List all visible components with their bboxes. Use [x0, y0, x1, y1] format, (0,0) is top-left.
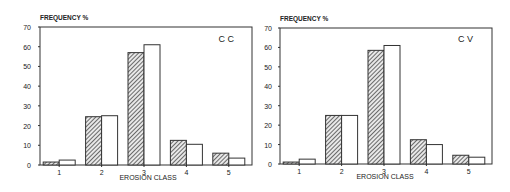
- bar-hatched-class-4: [170, 140, 186, 165]
- x-tick-label: 4: [184, 169, 188, 176]
- x-tick-label: 2: [100, 169, 104, 176]
- chart-title: C C: [219, 34, 235, 44]
- bar-open-class-1: [299, 159, 315, 164]
- chart-cv-svg: 010203040506070FREQUENCY %C V12345EROSIO…: [255, 0, 510, 192]
- y-tick-label: 70: [264, 25, 272, 32]
- y-tick-label: 30: [264, 103, 272, 110]
- bar-open-class-5: [229, 158, 245, 165]
- bar-open-class-2: [102, 116, 118, 165]
- bar-hatched-class-3: [128, 53, 144, 165]
- y-axis-label: FREQUENCY %: [40, 14, 88, 22]
- x-axis-label: EROSION CLASS: [356, 173, 414, 180]
- bar-open-class-4: [186, 144, 202, 165]
- bar-hatched-class-4: [410, 140, 426, 164]
- x-tick-label: 2: [340, 168, 344, 175]
- bar-hatched-class-5: [213, 153, 229, 165]
- bar-open-class-2: [342, 115, 358, 164]
- y-tick-label: 0: [27, 162, 31, 169]
- y-tick-label: 70: [23, 24, 31, 31]
- bar-open-class-3: [384, 45, 400, 164]
- x-tick-label: 5: [467, 168, 471, 175]
- chart-cv: 010203040506070FREQUENCY %C V12345EROSIO…: [255, 0, 510, 192]
- bar-hatched-class-5: [453, 155, 469, 164]
- x-axis-label: EROSION CLASS: [119, 174, 177, 181]
- y-tick-label: 60: [264, 44, 272, 51]
- bar-hatched-class-1: [43, 162, 59, 165]
- y-tick-label: 50: [264, 64, 272, 71]
- x-tick-label: 1: [57, 169, 61, 176]
- bar-open-class-4: [426, 145, 442, 164]
- chart-cc-svg: 010203040506070FREQUENCY %C C12345EROSIO…: [0, 0, 255, 192]
- x-tick-label: 4: [424, 168, 428, 175]
- x-tick-label: 1: [297, 168, 301, 175]
- y-tick-label: 30: [23, 103, 31, 110]
- bar-open-class-5: [469, 157, 485, 164]
- bar-open-class-3: [144, 45, 160, 165]
- y-tick-label: 0: [268, 161, 272, 168]
- bar-hatched-class-1: [283, 162, 299, 164]
- y-axis-label: FREQUENCY %: [280, 15, 328, 23]
- x-tick-label: 5: [227, 169, 231, 176]
- y-tick-label: 20: [23, 123, 31, 130]
- chart-cc: 010203040506070FREQUENCY %C C12345EROSIO…: [0, 0, 255, 192]
- y-tick-label: 10: [264, 142, 272, 149]
- y-tick-label: 40: [264, 83, 272, 90]
- y-tick-label: 20: [264, 122, 272, 129]
- y-tick-label: 60: [23, 44, 31, 51]
- bar-hatched-class-2: [86, 117, 102, 165]
- y-tick-label: 40: [23, 83, 31, 90]
- bar-hatched-class-2: [326, 115, 342, 164]
- y-tick-label: 50: [23, 63, 31, 70]
- chart-title: C V: [458, 34, 473, 44]
- bar-hatched-class-3: [368, 50, 384, 164]
- y-tick-label: 10: [23, 142, 31, 149]
- bar-open-class-1: [59, 160, 75, 165]
